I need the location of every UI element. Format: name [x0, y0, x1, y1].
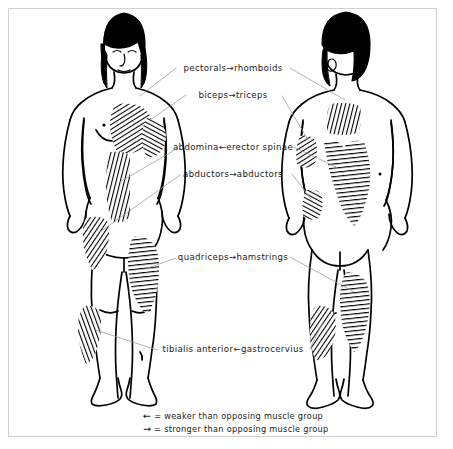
posterior-muscle-highlights — [296, 103, 370, 360]
erector-spinae-hatch — [324, 141, 370, 226]
hamstrings-hatch — [340, 272, 370, 352]
label-quadriceps-hamstrings: quadriceps→hamstrings — [178, 252, 288, 262]
abductors-back-hatch — [302, 190, 322, 220]
anterior-muscle-highlights — [78, 104, 166, 364]
right-arrow-icon: → — [143, 423, 151, 434]
legend-weaker: ← = weaker than opposing muscle group — [143, 410, 323, 421]
legend-stronger: → = stronger than opposing muscle group — [143, 423, 329, 434]
anterior-hair — [101, 13, 145, 60]
tibialis-anterior-hatch — [78, 306, 101, 364]
abdominals-hatch — [106, 152, 130, 223]
legend-stronger-text: = stronger than opposing muscle group — [154, 424, 328, 434]
quadriceps-hatch — [128, 236, 159, 314]
chart-sheet: pectorals→rhomboids biceps→triceps abdom… — [0, 0, 453, 449]
triceps-hatch — [296, 136, 317, 168]
legend-weaker-text: = weaker than opposing muscle group — [154, 411, 323, 421]
front-deltoid-hatch — [142, 118, 166, 157]
left-arrow-icon: ← — [143, 410, 151, 421]
rhomboids-hatch — [326, 103, 361, 135]
label-pectorals-rhomboids: pectorals→rhomboids — [183, 63, 282, 73]
label-biceps-triceps: biceps→triceps — [198, 90, 267, 100]
label-abductors-abductors: abductors→abductors — [183, 169, 283, 179]
label-abdominals-erector-spinae: abdomina←erector spinae — [173, 142, 293, 152]
label-tibialis-gastrocervius: tibialis anterior←gastrocervius — [162, 344, 303, 354]
abductors-front-hatch — [83, 217, 109, 270]
